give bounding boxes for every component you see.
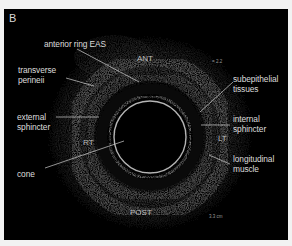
label-transverse-perinei: transverse perineii (18, 66, 56, 85)
label-longitudinal-muscle: longitudinal muscle (233, 155, 274, 174)
label-internal-sphincter: internal sphincter (233, 115, 266, 134)
label-anterior-ring-eas: anterior ring EAS (44, 40, 106, 50)
ultrasound-panel: B ANT POST RT LT = 2.2 3.3 cm anterior r… (4, 9, 288, 240)
label-subepithelial-tissues: subepithelial tissues (233, 75, 278, 94)
label-cone: cone (17, 170, 35, 180)
label-external-sphincter: external sphincter (17, 113, 50, 132)
